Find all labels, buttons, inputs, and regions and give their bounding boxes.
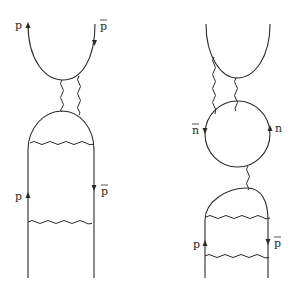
left-wavy-line-3 — [30, 142, 94, 145]
label-left-bottom-pbar: p — [101, 185, 108, 198]
label-right-loop-n: n — [275, 122, 282, 135]
label-right-bottom-p: p — [193, 238, 200, 251]
label-right-bottom-pbar: p — [274, 237, 281, 250]
left-bottom-arrow-up-icon — [26, 192, 31, 198]
label-left-top-pbar: p — [100, 20, 107, 33]
right-loop-arrow-down-icon — [203, 128, 208, 134]
right-bottom-fermion-dome — [205, 188, 268, 278]
right-bottom-arrow-up-icon — [203, 240, 208, 246]
right-loop-arrow-up-icon — [268, 125, 273, 131]
right-wavy-line-1 — [213, 57, 216, 114]
left-bottom-arrow-down-icon — [92, 185, 97, 191]
right-wavy-line-5 — [205, 255, 269, 259]
label-left-top-p: p — [15, 19, 22, 32]
left-top-fermion-arc — [28, 24, 95, 80]
label-right-loop-nbar: n — [192, 124, 199, 137]
feynman-diagrams-canvas: p p p p n n — [0, 0, 300, 295]
left-wavy-line-4 — [28, 221, 92, 225]
right-top-fermion-arc — [206, 24, 270, 78]
right-neutron-loop — [205, 101, 270, 167]
right-diagram: n n p p — [192, 24, 282, 278]
left-top-arrow-up-icon — [26, 22, 31, 28]
left-wavy-line-2 — [78, 76, 81, 115]
right-bottom-arrow-down-icon — [266, 239, 271, 245]
right-wavy-line-2 — [235, 78, 238, 111]
left-wavy-line-1 — [61, 80, 64, 112]
label-left-bottom-p: p — [15, 190, 22, 203]
right-wavy-line-3 — [247, 166, 250, 190]
left-diagram: p p p p — [15, 19, 108, 278]
right-wavy-line-4 — [206, 216, 270, 219]
left-bottom-fermion-dome — [28, 111, 94, 278]
